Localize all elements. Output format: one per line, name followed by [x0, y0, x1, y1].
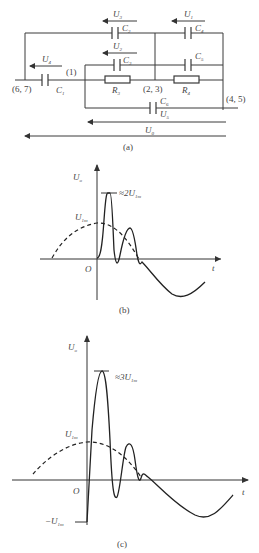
y-axis-arrow-b: [94, 164, 100, 171]
origin-label-b: O: [85, 264, 92, 274]
y-axis-arrow-c: [84, 335, 90, 342]
circuit-diagram: U3 U1 U2 U4 C2 C4 C3 C5 C1 C6 U5 U0 R3 R…: [12, 9, 246, 152]
output-curve-b: [97, 193, 205, 297]
c3-label: C3: [123, 55, 132, 66]
u0-label: U0: [145, 125, 155, 136]
ref-label-c: U1m: [65, 429, 78, 440]
x-label-b: t: [212, 263, 215, 273]
y-label-c: Uo: [68, 342, 78, 353]
capacitor-c5: [185, 59, 191, 71]
capacitor-c2: [112, 27, 118, 39]
peak-label-c: ≈3U1m: [115, 372, 137, 383]
input-sine-b: [52, 223, 139, 259]
y-label-b: Uo: [73, 172, 83, 183]
c2-label: C2: [122, 23, 131, 34]
node-2-3-label: (2, 3): [143, 84, 163, 94]
chart-b: Uo ≈2U1m U1m O t (b): [40, 164, 221, 315]
u4-small-label: U4: [42, 54, 52, 65]
resistor-r3: [105, 76, 130, 83]
node-6-7-label: (6, 7): [12, 84, 32, 94]
capacitor-c3: [114, 59, 120, 71]
u1-label: U1: [184, 9, 193, 20]
c6-label: C6: [160, 96, 169, 107]
caption-b: (b): [119, 305, 130, 315]
figure-canvas: U3 U1 U2 U4 C2 C4 C3 C5 C1 C6 U5 U0 R3 R…: [0, 0, 259, 553]
x-axis-arrow-c: [242, 477, 249, 483]
capacitor-c4: [185, 27, 191, 39]
origin-label-c: O: [73, 486, 80, 496]
resistor-r4: [174, 76, 199, 83]
r4-label: R4: [181, 85, 191, 96]
node-4-5-label: (4, 5): [226, 94, 246, 104]
x-label-c: t: [242, 487, 245, 497]
u5-label: U5: [160, 109, 170, 120]
x-axis-arrow-b: [215, 256, 221, 262]
ref-label-b: U1m: [75, 212, 88, 223]
c4-label: C4: [195, 23, 204, 34]
u2-label: U2: [113, 41, 123, 52]
capacitor-c6: [150, 102, 156, 114]
c5-label: C5: [195, 51, 204, 62]
neg-label-c: −U1m: [45, 516, 64, 527]
c1-label: C1: [56, 85, 65, 96]
chart-c: Uo ≈3U1m U1m O t −U1m (c): [12, 335, 249, 549]
caption-a: (a): [123, 142, 133, 152]
peak-label-b: ≈2U1m: [119, 188, 141, 199]
node-1-label: (1): [66, 67, 77, 77]
u3-label: U3: [113, 9, 123, 20]
caption-c: (c): [117, 539, 127, 549]
capacitor-c1: [42, 74, 48, 86]
r3-label: R3: [111, 85, 121, 96]
